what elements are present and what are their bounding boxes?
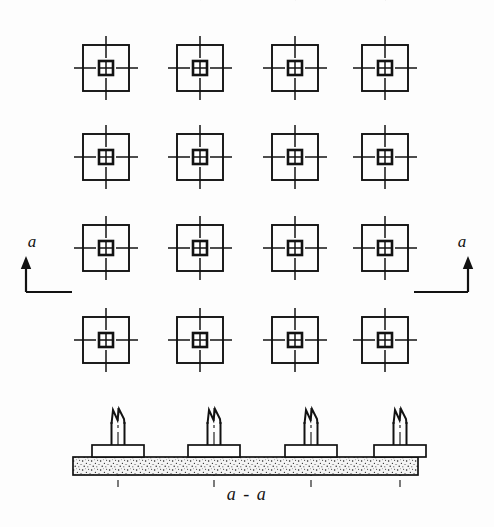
section-pad-3 (374, 445, 426, 457)
drawing-canvas: aa a - a (0, 0, 494, 527)
foundation-plan (0, 0, 417, 372)
footing-6 (263, 125, 327, 189)
footing-5 (168, 125, 232, 189)
footing-1 (168, 36, 232, 100)
section-marker-left: a (21, 232, 72, 292)
footing-0 (74, 36, 138, 100)
section-column-break-1 (208, 409, 221, 424)
section-marker-right-arrowhead (463, 256, 473, 269)
section-marker-right-label: a (458, 232, 467, 251)
section-pad-2 (285, 445, 337, 457)
footing-12 (74, 308, 138, 372)
footing-7 (353, 125, 417, 189)
footing-9 (168, 216, 232, 280)
section-pad-1 (188, 445, 240, 457)
section-marker-left-label: a (28, 232, 37, 251)
section-marker-right: a (414, 232, 473, 292)
footing-8 (74, 216, 138, 280)
drawing-sheet: aa a - a a - a (0, 0, 494, 527)
section-markers: aa (21, 232, 473, 292)
blinding-layer (73, 457, 418, 475)
section-column-break-0 (112, 409, 125, 424)
footing-13 (168, 308, 232, 372)
section-column-break-3 (394, 409, 407, 424)
footing-2 (263, 36, 327, 100)
footing-4 (74, 125, 138, 189)
footing-10 (263, 216, 327, 280)
footing-3 (353, 36, 417, 100)
section-caption: a - a (227, 484, 268, 504)
section-column-break-2 (305, 409, 318, 424)
section-pad-0 (92, 445, 144, 457)
section-a-a: a - a (73, 408, 426, 504)
footing-11 (353, 216, 417, 280)
footing-15 (353, 308, 417, 372)
section-marker-left-arrowhead (21, 256, 31, 269)
footing-14 (263, 308, 327, 372)
